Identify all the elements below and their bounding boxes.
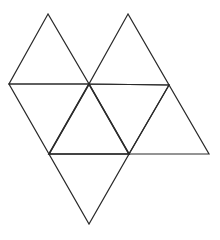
- octahedron-net: [0, 0, 220, 240]
- triangle-face-t2: [89, 14, 169, 85]
- triangle-face-t1: [9, 14, 89, 84]
- triangle-face-t5: [89, 84, 169, 154]
- triangle-face-t4: [49, 84, 129, 154]
- octahedron-net-diagram: [0, 0, 220, 240]
- triangle-face-t7: [49, 154, 129, 224]
- triangle-face-t3: [9, 84, 89, 154]
- triangle-face-t6: [129, 85, 209, 154]
